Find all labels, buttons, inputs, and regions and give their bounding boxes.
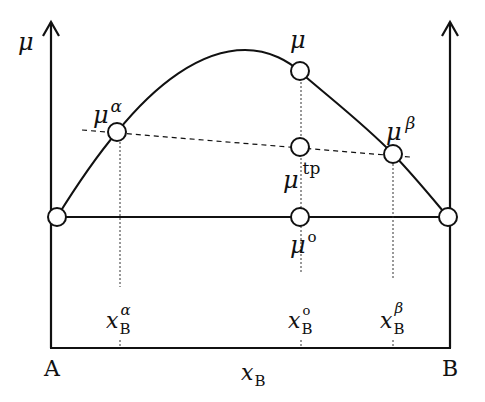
point-mu-tp	[291, 138, 309, 156]
point-right	[439, 208, 457, 226]
label-A: A	[43, 356, 61, 381]
label-xb-alpha: xBα	[106, 301, 131, 338]
tangent-line	[82, 130, 410, 157]
label-xb-beta: xBβ	[380, 299, 404, 338]
label-xb-o: xBo	[288, 303, 312, 338]
point-mu-o	[291, 208, 309, 226]
point-mu-alpha	[108, 123, 126, 141]
point-left	[48, 208, 66, 226]
label-B: B	[442, 356, 458, 381]
label-mu-beta: μβ	[386, 113, 416, 146]
x-axis-label: xB	[241, 360, 265, 390]
drop-lines	[120, 78, 393, 348]
chemical-potential-diagram: μ μ μα μβ μtp μo xBα xBo xBβ A B xB	[0, 0, 485, 402]
label-mu: μ	[290, 26, 306, 54]
point-mu-beta	[384, 145, 402, 163]
y-axis-label: μ	[18, 28, 34, 56]
point-mu	[291, 62, 309, 80]
label-mu-o: μo	[290, 228, 317, 259]
label-mu-tp: μtp	[283, 158, 320, 194]
